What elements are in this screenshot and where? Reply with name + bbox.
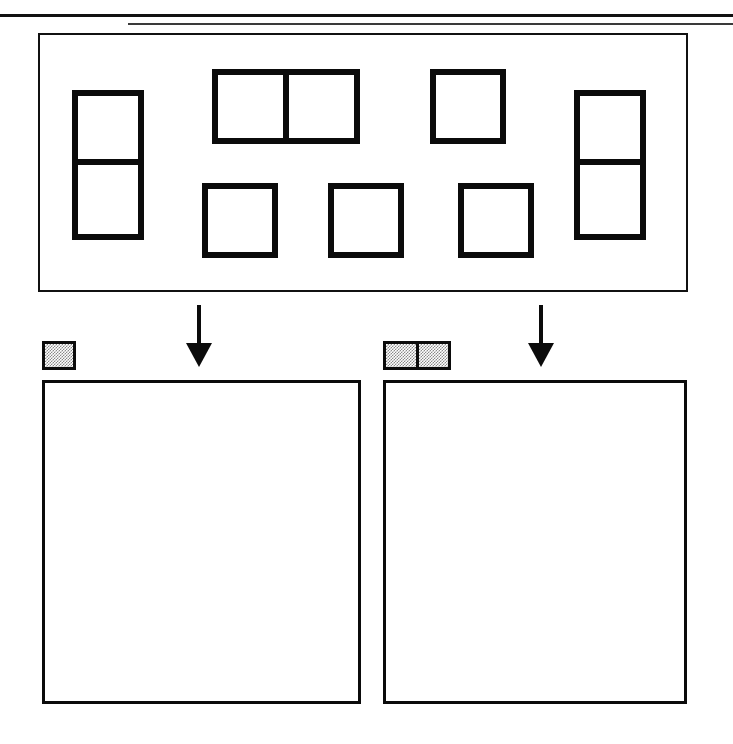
swatch-double-square	[383, 341, 451, 370]
secondary-horizontal-rule	[128, 23, 733, 25]
domino-divider	[78, 159, 138, 165]
arrow-shaft	[539, 305, 543, 347]
horizontal-domino-top[interactable]	[212, 69, 360, 144]
swatch-single-square	[42, 341, 76, 370]
arrow-head-down-icon	[528, 343, 554, 367]
vertical-domino-right[interactable]	[574, 90, 646, 240]
domino-divider	[283, 75, 289, 138]
caption-strip	[0, 0, 733, 12]
dropbox-domino[interactable]	[383, 380, 687, 704]
arrow-head-down-icon	[186, 343, 212, 367]
arrow-shaft	[197, 305, 201, 347]
domino-divider	[580, 159, 640, 165]
dropbox-monomino[interactable]	[42, 380, 361, 704]
arrow-to-left-box	[186, 305, 212, 367]
single-square-row2-a[interactable]	[202, 183, 278, 258]
single-square-row2-c[interactable]	[458, 183, 534, 258]
single-square-row2-b[interactable]	[328, 183, 404, 258]
vertical-domino-left[interactable]	[72, 90, 144, 240]
arrow-to-right-box	[528, 305, 554, 367]
swatch-divider	[416, 344, 419, 367]
single-square-top[interactable]	[430, 69, 506, 144]
top-horizontal-rule	[0, 14, 733, 17]
shape-pool-container	[38, 33, 688, 292]
figure-page	[0, 0, 733, 744]
